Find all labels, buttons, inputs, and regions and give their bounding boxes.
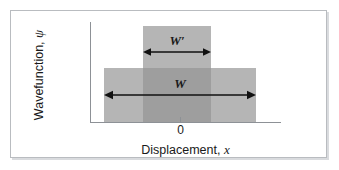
plot-area: W′ W 0 Wavefunction, ψ Displacement, x bbox=[0, 0, 339, 170]
y-axis-title-symbol: ψ bbox=[31, 30, 46, 38]
y-axis-title: Wavefunction, ψ bbox=[31, 10, 47, 140]
x-axis-zero-tick bbox=[180, 117, 181, 122]
x-axis-zero-label: 0 bbox=[168, 123, 193, 137]
y-axis-title-text: Wavefunction, bbox=[32, 41, 46, 120]
x-axis-title: Displacement, x bbox=[90, 142, 281, 158]
label-wide-width: W bbox=[104, 76, 256, 92]
figure-container: W′ W 0 Wavefunction, ψ Displacement, x bbox=[0, 0, 339, 170]
x-axis-title-symbol: x bbox=[224, 142, 230, 157]
x-axis-title-text: Displacement, bbox=[141, 143, 220, 157]
y-axis-line bbox=[90, 22, 91, 122]
label-narrow-width: W′ bbox=[143, 33, 211, 49]
